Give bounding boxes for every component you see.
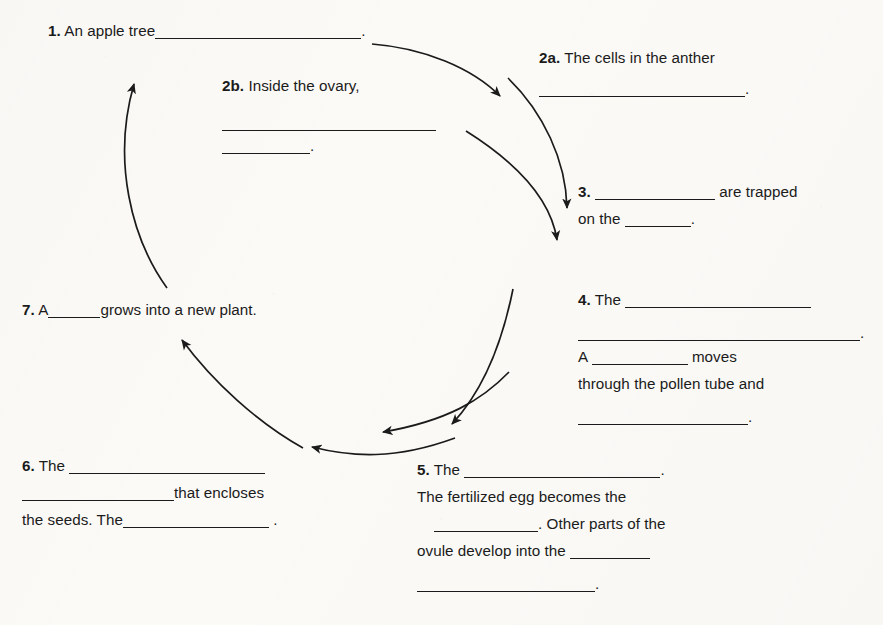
step-2b-blank-2[interactable] [222, 140, 310, 154]
step-4-period-1: . [860, 324, 864, 341]
step-2b-number: 2b. [222, 77, 244, 94]
arrow-4-to-5 [452, 289, 513, 424]
step-5-line-1: 5. The . [417, 456, 666, 483]
step-6-line-1: 6. The [22, 452, 277, 479]
step-6-blank-1[interactable] [69, 460, 265, 474]
step-5-text-3: Other parts of the [547, 515, 666, 532]
step-5-period-3: . [595, 575, 599, 592]
step-7-text-2: grows into a new plant. [100, 301, 257, 318]
step-6-blank-3[interactable] [123, 514, 269, 528]
step-4-line-4: through the pollen tube and [578, 370, 864, 397]
step-6-blank-2[interactable] [22, 487, 174, 501]
step-6-text-3: the seeds. The [22, 511, 123, 528]
step-6-number: 6. [22, 457, 35, 474]
step-4-number: 4. [578, 291, 591, 308]
arrow-7-to-1 [125, 84, 167, 288]
step-3-blank-2[interactable] [625, 213, 691, 227]
step-3-text-1: are trapped [719, 183, 797, 200]
step-2a-line-1: 2a. The cells in the anther [539, 44, 749, 71]
step-1-line-1: 1. An apple tree. [48, 17, 365, 44]
step-5-text-2: The fertilized egg becomes the [417, 488, 626, 505]
step-2b-line-2 [222, 99, 436, 132]
step-2a-number: 2a. [539, 49, 560, 66]
step-4-text-3: moves [692, 348, 737, 365]
step-5-period-2: . [538, 515, 542, 532]
step-1-blank-1[interactable] [155, 25, 361, 39]
step-2b-blank-1[interactable] [222, 117, 436, 131]
step-4-line-2: . [578, 313, 864, 343]
step-3-text-2: on the [578, 210, 621, 227]
step-6-line-3: the seeds. The . [22, 506, 277, 533]
step-7-number: 7. [22, 301, 35, 318]
step-1-block: 1. An apple tree. [48, 17, 365, 44]
step-2a-blank-1[interactable] [539, 83, 745, 97]
step-3-block: 3. are trapped on the . [578, 178, 798, 232]
worksheet-page: 1. An apple tree. 2a. The cells in the a… [0, 0, 883, 625]
step-5-blank-2[interactable] [434, 518, 538, 532]
step-4-blank-1[interactable] [625, 294, 811, 308]
step-5-line-2: The fertilized egg becomes the [417, 483, 666, 510]
arrow-4-to-6 [383, 372, 509, 432]
step-4-text-1: The [595, 291, 621, 308]
step-7-line-1: 7. Agrows into a new plant. [22, 296, 257, 323]
step-5-line-3: . Other parts of the [417, 510, 666, 537]
step-4-blank-3[interactable] [592, 351, 688, 365]
step-1-text: An apple tree [64, 22, 155, 39]
step-5-text-1: The [434, 461, 460, 478]
step-2a-text: The cells in the anther [564, 49, 715, 66]
step-3-line-2: on the . [578, 205, 798, 232]
step-4-blank-4[interactable] [578, 411, 748, 425]
step-5-period-1: . [660, 461, 664, 478]
step-6-period: . [273, 511, 277, 528]
step-5-blank-3[interactable] [570, 545, 650, 559]
step-2b-text: Inside the ovary, [248, 77, 359, 94]
step-5-block: 5. The . The fertilized egg becomes the … [417, 456, 666, 594]
step-4-line-1: 4. The [578, 286, 864, 313]
step-4-text-2: A [578, 348, 587, 365]
step-4-block: 4. The . A moves through the pollen tube… [578, 286, 864, 427]
step-7-block: 7. Agrows into a new plant. [22, 296, 257, 323]
step-4-blank-2[interactable] [578, 327, 860, 341]
step-2b-line-1: 2b. Inside the ovary, [222, 72, 436, 99]
arrow-2b-to-3 [466, 131, 557, 240]
step-4-line-5: . [578, 397, 864, 427]
step-6-block: 6. The that encloses the seeds. The . [22, 452, 277, 533]
step-7-blank-1[interactable] [48, 304, 100, 318]
step-5-line-5: . [417, 564, 666, 594]
step-2a-line-2: . [539, 71, 749, 99]
step-5-blank-1[interactable] [464, 464, 660, 478]
step-6-text-1: The [39, 457, 65, 474]
step-5-blank-4[interactable] [417, 578, 595, 592]
step-5-text-4: ovule develop into the [417, 542, 566, 559]
step-3-period: . [691, 210, 695, 227]
step-7-text-1: A [38, 301, 48, 318]
step-1-number: 1. [48, 22, 61, 39]
step-4-text-4: through the pollen tube and [578, 375, 764, 392]
step-6-text-2: that encloses [174, 484, 264, 501]
step-4-period-2: . [748, 408, 752, 425]
step-3-line-1: 3. are trapped [578, 178, 798, 205]
step-3-number: 3. [578, 183, 591, 200]
step-1-period: . [361, 22, 365, 39]
step-2b-period: . [310, 137, 314, 154]
step-4-line-3: A moves [578, 343, 864, 370]
step-3-blank-1[interactable] [595, 186, 715, 200]
arrow-5-to-6 [312, 438, 455, 455]
step-2a-block: 2a. The cells in the anther . [539, 44, 749, 99]
step-2b-block: 2b. Inside the ovary, . [222, 72, 436, 159]
step-6-line-2: that encloses [22, 479, 277, 506]
arrow-6-to-7 [182, 340, 303, 448]
step-5-line-4: ovule develop into the [417, 537, 666, 564]
step-2a-period: . [745, 80, 749, 97]
step-2b-line-3: . [222, 132, 436, 159]
step-5-number: 5. [417, 461, 430, 478]
